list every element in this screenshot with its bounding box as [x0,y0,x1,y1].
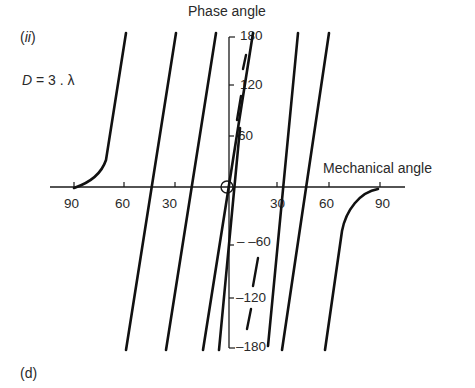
phase-branch-8 [325,189,378,350]
dashed-continuation [237,55,258,329]
phase-branch-7 [282,33,329,350]
phase-branch-2 [126,33,176,350]
phase-branch-1 [74,33,126,188]
chart-plot-area [0,0,475,388]
phase-branch-6 [268,33,298,346]
phase-branch-4 [203,33,253,350]
phase-branch-3 [166,33,216,350]
